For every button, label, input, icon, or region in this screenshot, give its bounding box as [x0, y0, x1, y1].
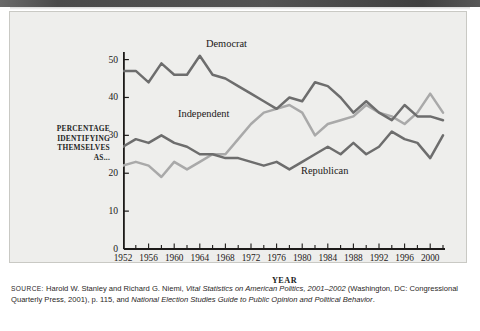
series-line-democrat: [123, 56, 443, 120]
figure-panel: PERCENTAGE IDENTIFYING THEMSELVES AS... …: [9, 11, 467, 263]
source-note: SOURCE: Harold W. Stanley and Richard G.…: [11, 283, 463, 305]
source-note-text-1: Harold W. Stanley and Richard G. Niemi,: [44, 284, 186, 293]
y-tick-label: 10: [96, 205, 118, 216]
y-tick-label: 20: [96, 167, 118, 178]
source-note-label: SOURCE:: [11, 285, 44, 292]
series-label-democrat: Democrat: [206, 38, 247, 49]
plot-area: [123, 52, 446, 254]
y-tick-label: 50: [96, 54, 118, 65]
page-edge-bar-gradient: [0, 0, 480, 7]
line-chart: [123, 52, 446, 254]
series-label-independent: Independent: [178, 108, 229, 119]
page-edge-bar: [0, 0, 480, 7]
y-axis-title-line-4: AS...: [32, 153, 110, 163]
y-tick-label: 40: [96, 91, 118, 102]
y-tick-label: 30: [96, 129, 118, 140]
x-tick-label: 2000: [413, 253, 447, 263]
y-axis-title-line-3: THEMSELVES: [32, 143, 110, 153]
source-note-title-1: Vital Statistics on American Politics, 2…: [186, 284, 346, 293]
source-note-title-2: National Election Studies Guide to Publi…: [131, 295, 372, 304]
source-note-text-3: .: [373, 295, 375, 304]
series-label-republican: Republican: [301, 165, 348, 176]
page-edge-shadow: [10, 7, 470, 10]
